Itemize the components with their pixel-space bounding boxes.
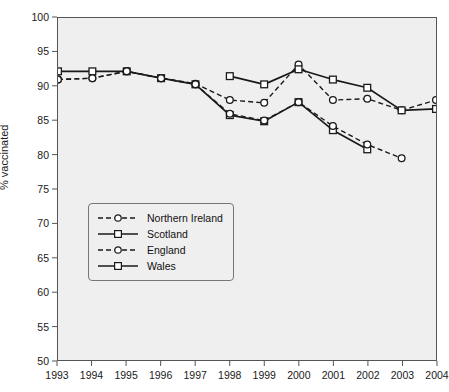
legend-item-northern-ireland[interactable]: Northern Ireland [89,210,233,226]
y-tick-label: 80 [15,149,49,161]
legend-swatch-solid-square [97,227,139,241]
plot-area [57,17,437,361]
data-point-circle [261,99,268,106]
legend-swatch-solid-square [97,259,139,273]
x-tick-label: 1998 [218,369,241,381]
legend-item-scotland[interactable]: Scotland [89,226,233,242]
y-tick-label: 55 [15,321,49,333]
y-tick-label: 100 [15,11,49,23]
legend-item-wales[interactable]: Wales [89,258,233,274]
x-tick-label: 1995 [114,369,137,381]
x-tick-label: 2000 [287,369,310,381]
data-point-square [226,73,233,80]
data-point-circle [158,75,165,82]
data-point-square [398,107,405,114]
y-tick-label: 50 [15,355,49,367]
data-point-circle [192,81,199,88]
data-point-square [295,66,302,73]
legend-label: Wales [147,260,176,272]
data-point-circle [330,123,337,130]
x-tick-label: 2003 [391,369,414,381]
data-point-circle [398,155,405,162]
y-axis-title: % vaccinated [0,125,10,190]
legend-swatch-dashed-circle [97,243,139,257]
data-point-circle [58,76,61,83]
legend-swatch-dashed-circle [97,211,139,225]
series-wales [226,66,436,114]
data-point-circle [226,110,233,117]
x-tick-label: 2004 [425,369,448,381]
x-tick-label: 1996 [149,369,172,381]
series-scotland [58,68,371,153]
data-point-circle [330,97,337,104]
data-point-square [364,84,371,91]
plot-canvas [58,18,436,360]
data-point-circle [123,68,130,75]
y-tick-label: 60 [15,286,49,298]
y-tick-label: 90 [15,80,49,92]
data-point-circle [364,95,371,102]
y-tick-label: 95 [15,45,49,57]
y-tick-label: 75 [15,183,49,195]
y-tick-label: 85 [15,114,49,126]
y-tick-label: 65 [15,252,49,264]
data-point-square [89,68,96,75]
legend-label: Northern Ireland [147,212,223,224]
legend-label: Scotland [147,228,188,240]
data-point-circle [433,97,436,104]
data-point-square [261,81,268,88]
data-point-circle [364,141,371,148]
legend: Northern Ireland Scotland England Wales [88,203,234,281]
x-tick-label: 1999 [253,369,276,381]
data-point-circle [89,75,96,82]
data-point-circle [295,99,302,106]
legend-label: England [147,244,186,256]
y-tick-label: 70 [15,217,49,229]
x-tick-label: 2002 [356,369,379,381]
x-tick-label: 1993 [45,369,68,381]
legend-item-england[interactable]: England [89,242,233,258]
series-line [58,71,367,149]
data-point-square [433,106,436,113]
data-point-square [330,76,337,83]
series-northern-ireland [58,61,436,114]
data-point-circle [226,97,233,104]
data-point-circle [261,117,268,124]
x-tick-label: 1997 [183,369,206,381]
x-tick-label: 1994 [80,369,103,381]
data-point-square [58,68,61,75]
x-tick-label: 2001 [322,369,345,381]
series-england [58,68,405,162]
